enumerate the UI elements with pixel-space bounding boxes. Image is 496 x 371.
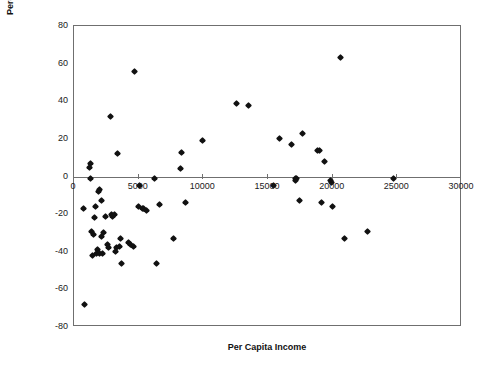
data-point [114, 150, 121, 157]
x-axis-tick [396, 174, 397, 179]
y-axis-tick-label: 0 [46, 171, 68, 181]
y-axis-tick-label: -60 [46, 283, 68, 293]
data-point [156, 201, 163, 208]
data-point [295, 197, 302, 204]
y-axis-tick-label: -40 [46, 246, 68, 256]
data-point [90, 231, 97, 238]
x-axis-tick [202, 174, 203, 179]
data-point [182, 199, 189, 206]
data-point [81, 301, 88, 308]
x-axis-tick [138, 174, 139, 179]
data-point [131, 68, 138, 75]
data-point [143, 207, 150, 214]
data-point [118, 259, 125, 266]
y-axis-tick-label: 60 [46, 58, 68, 68]
data-point [316, 147, 323, 154]
x-axis-tick-label: 0 [70, 181, 75, 191]
x-axis-tick [267, 174, 268, 179]
x-axis-tick-label: 10000 [190, 181, 215, 191]
data-point [299, 130, 306, 137]
data-point [276, 135, 283, 142]
data-point [117, 235, 124, 242]
y-axis-tick-label: 40 [46, 95, 68, 105]
y-axis-title: Percentage Change in the Terms of Trade,… [2, 0, 18, 57]
data-point [170, 235, 177, 242]
x-axis-tick [332, 174, 333, 179]
data-point [364, 228, 371, 235]
data-point [245, 101, 252, 108]
data-point [130, 243, 137, 250]
data-point [337, 54, 344, 61]
y-axis-tick-label: -80 [46, 321, 68, 331]
data-point [153, 259, 160, 266]
data-point [92, 203, 99, 210]
x-axis-title: Per Capita Income [73, 342, 461, 352]
data-point [198, 137, 205, 144]
scatter-plot-figure: Percentage Change in the Terms of Trade,… [0, 0, 496, 371]
y-axis-tick-label: -20 [46, 208, 68, 218]
x-axis-tick-label: 20000 [319, 181, 344, 191]
x-axis-tick-label: 15000 [254, 181, 279, 191]
data-point [329, 203, 336, 210]
y-axis-tick-label: 20 [46, 133, 68, 143]
data-point [288, 141, 295, 148]
x-axis-tick-label: 30000 [448, 181, 473, 191]
data-point [80, 205, 87, 212]
data-point [178, 148, 185, 155]
data-point [341, 235, 348, 242]
data-point [233, 100, 240, 107]
y-axis-tick-label: 80 [46, 20, 68, 30]
x-axis-tick-label: 5000 [128, 181, 148, 191]
data-point [317, 199, 324, 206]
data-point [91, 214, 98, 221]
data-point [107, 113, 114, 120]
data-point [98, 197, 105, 204]
data-point [177, 165, 184, 172]
data-point [321, 158, 328, 165]
x-axis-tick-label: 25000 [384, 181, 409, 191]
